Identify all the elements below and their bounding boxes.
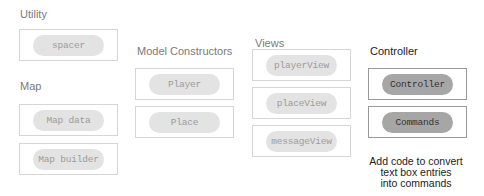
- module-box-map-builder: Map builder: [19, 143, 118, 175]
- module-box-map-data: Map data: [19, 104, 118, 136]
- module-box-player: Player: [135, 68, 234, 100]
- module-box-controller: Controller: [368, 68, 467, 100]
- group-label-controller: Controller: [370, 45, 418, 58]
- module-pill-controller: Controller: [382, 74, 453, 95]
- module-pill-map-builder: Map builder: [33, 149, 104, 170]
- module-pill-map-data: Map data: [33, 110, 104, 131]
- module-pill-place: Place: [149, 112, 220, 133]
- caption-line-3: into commands: [364, 178, 468, 189]
- group-label-utility: Utility: [20, 8, 47, 21]
- controller-caption: Add code to convert text box entries int…: [364, 156, 468, 189]
- module-pill-commands: Commands: [382, 112, 453, 133]
- module-box-player-view: playerView: [252, 49, 351, 81]
- group-label-model-constructors: Model Constructors: [137, 45, 232, 58]
- module-diagram: Utility spacer Map Map data Map builder …: [0, 0, 484, 196]
- module-box-spacer: spacer: [19, 29, 118, 61]
- module-pill-player-view: playerView: [266, 55, 337, 76]
- module-box-place: Place: [135, 106, 234, 138]
- module-box-place-view: placeView: [252, 87, 351, 119]
- module-pill-spacer: spacer: [33, 35, 104, 56]
- module-pill-player: Player: [149, 74, 220, 95]
- module-box-message-view: messageView: [252, 125, 351, 157]
- module-pill-place-view: placeView: [266, 93, 337, 114]
- module-pill-message-view: messageView: [266, 131, 337, 152]
- module-box-commands: Commands: [368, 106, 467, 138]
- group-label-map: Map: [20, 80, 41, 93]
